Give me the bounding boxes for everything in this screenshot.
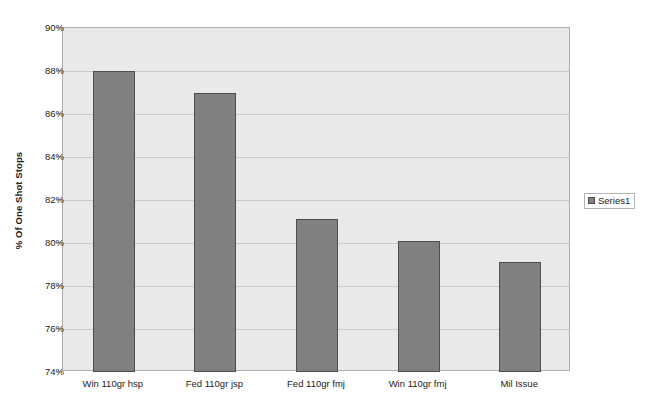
bar xyxy=(93,71,135,372)
y-tick-mark xyxy=(57,27,62,28)
bar xyxy=(296,219,338,372)
plot-area xyxy=(62,27,570,371)
y-tick-mark xyxy=(57,199,62,200)
gridline xyxy=(63,114,569,115)
y-tick-mark xyxy=(57,113,62,114)
y-tick-mark xyxy=(57,371,62,372)
y-tick-mark xyxy=(57,328,62,329)
y-tick-mark xyxy=(57,156,62,157)
bar xyxy=(398,241,440,372)
bar xyxy=(499,262,541,372)
x-tick-label: Mil Issue xyxy=(500,378,537,389)
bar xyxy=(194,93,236,373)
x-tick-label: Win 110gr fmj xyxy=(389,378,447,389)
x-tick-label: Fed 110gr fmj xyxy=(287,378,345,389)
x-tick-label: Fed 110gr jsp xyxy=(186,378,243,389)
y-tick-mark xyxy=(57,285,62,286)
y-tick-mark xyxy=(57,70,62,71)
gridline xyxy=(63,71,569,72)
y-tick-mark xyxy=(57,242,62,243)
x-tick-label: Win 110gr hsp xyxy=(83,378,144,389)
legend-label: Series1 xyxy=(598,196,630,206)
gridline xyxy=(63,200,569,201)
legend-swatch-icon xyxy=(588,197,595,204)
gridline xyxy=(63,157,569,158)
bar-chart: % Of One Shot Stops 74%76%78%80%82%84%86… xyxy=(0,0,648,418)
chart-legend: Series1 xyxy=(584,193,635,209)
